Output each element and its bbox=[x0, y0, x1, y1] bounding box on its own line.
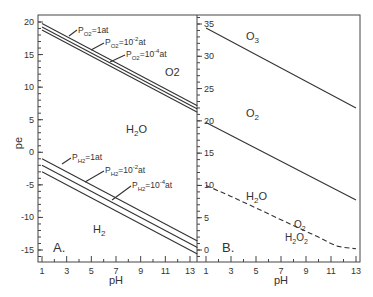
y-tick-label: 10 bbox=[204, 180, 214, 190]
x-tick-label: 9 bbox=[138, 266, 143, 276]
x-tick-label: 3 bbox=[64, 266, 69, 276]
pointer bbox=[110, 55, 125, 62]
y-tick-label: -10 bbox=[21, 212, 34, 222]
y-tick-label: 35 bbox=[204, 19, 214, 29]
series-line bbox=[206, 123, 356, 201]
pe-ph-diagram: 20151050-5-10-15135791113 35302520151050… bbox=[0, 0, 373, 297]
x-tick-label: 1 bbox=[203, 266, 208, 276]
po2-1e-2-label: PO2=10-2at bbox=[105, 36, 146, 49]
series-line bbox=[42, 165, 197, 247]
panel-b-lines bbox=[206, 28, 356, 249]
y-tick-label: 0 bbox=[29, 147, 34, 157]
pointer bbox=[85, 171, 104, 182]
x-axis-label-a: pH bbox=[109, 274, 123, 286]
y-tick-label: 15 bbox=[24, 50, 34, 60]
series-line bbox=[42, 24, 197, 106]
panel-a-lines bbox=[42, 24, 197, 254]
x-axis-label-b: pH bbox=[274, 274, 288, 286]
y-tick-label: 10 bbox=[24, 82, 34, 92]
y-tick-label: 25 bbox=[204, 84, 214, 94]
ph2-1e-4-label: PH2=10-4at bbox=[132, 179, 173, 192]
series-line bbox=[206, 28, 356, 108]
region-h2o2-label: H2O2 bbox=[285, 232, 308, 245]
y-tick-label: 5 bbox=[29, 115, 34, 125]
y-tick-label: 5 bbox=[204, 213, 209, 223]
po2-1e-4-label: PO2=10-4at bbox=[126, 48, 167, 61]
y-tick-label: -5 bbox=[26, 180, 34, 190]
plot-frame bbox=[38, 15, 360, 262]
region-o3-label: O3 bbox=[246, 30, 260, 45]
ph2-1at-label: PH2=1at bbox=[72, 152, 103, 164]
y-tick-label: 15 bbox=[204, 148, 214, 158]
y-tick-label: 30 bbox=[204, 51, 214, 61]
region-o2-small-label: O2 bbox=[294, 219, 306, 232]
region-h2o-label-b: H2O bbox=[246, 190, 267, 205]
x-tick-label: 5 bbox=[89, 266, 94, 276]
region-o2-label-b: O2 bbox=[246, 107, 260, 122]
x-tick-label: 9 bbox=[303, 266, 308, 276]
panel-a-label: A. bbox=[53, 240, 65, 255]
y-tick-label: 20 bbox=[24, 17, 34, 27]
x-tick-label: 13 bbox=[351, 266, 361, 276]
panel-a-ticks: 20151050-5-10-15135791113 bbox=[21, 17, 195, 276]
region-h2o-label: H2O bbox=[126, 123, 147, 138]
panel-b-ticks: 35302520151050135791113 bbox=[197, 18, 361, 276]
pointer bbox=[62, 158, 71, 164]
pointer bbox=[112, 186, 131, 200]
x-tick-label: 3 bbox=[228, 266, 233, 276]
pointer bbox=[69, 30, 77, 36]
ph2-1e-2-label: PH2=10-2at bbox=[105, 164, 146, 177]
x-tick-label: 5 bbox=[253, 266, 258, 276]
x-tick-label: 11 bbox=[161, 266, 170, 276]
region-o2-label: O2 bbox=[165, 66, 180, 78]
pointer bbox=[91, 43, 104, 50]
series-line bbox=[42, 172, 197, 254]
y-axis-label: pe bbox=[12, 137, 24, 149]
y-tick-label: -15 bbox=[21, 245, 34, 255]
po2-1at-label: PO2=1at bbox=[78, 25, 109, 37]
y-tick-label: 0 bbox=[204, 245, 209, 255]
region-h2-label: H2 bbox=[93, 223, 106, 238]
x-tick-label: 13 bbox=[185, 266, 195, 276]
x-tick-label: 11 bbox=[326, 266, 335, 276]
panel-b-label: B. bbox=[222, 240, 234, 255]
x-tick-label: 1 bbox=[39, 266, 44, 276]
